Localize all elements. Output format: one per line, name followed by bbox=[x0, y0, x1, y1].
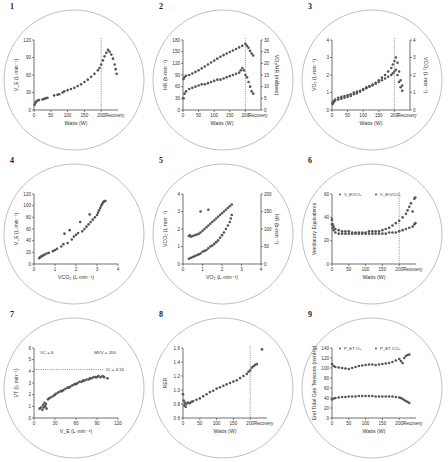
y-tick-label: 3 bbox=[177, 209, 180, 214]
data-point bbox=[381, 395, 384, 398]
y-axis-label: VT (L·min⁻¹) bbox=[13, 368, 19, 397]
data-point bbox=[361, 364, 364, 367]
x-tick-label: 50 bbox=[197, 421, 203, 426]
data-point bbox=[348, 232, 351, 235]
chart-svg: 050100150200Recovery03060901201501800510… bbox=[149, 0, 298, 154]
data-point bbox=[391, 231, 394, 234]
data-point bbox=[384, 395, 387, 398]
x-tick-label: 2 bbox=[75, 267, 78, 272]
x-tick-label: 50 bbox=[48, 113, 54, 118]
data-point bbox=[354, 232, 357, 235]
data-point bbox=[337, 396, 340, 399]
data-point bbox=[112, 57, 115, 60]
y2-tick-label: 2 bbox=[413, 73, 416, 78]
data-point bbox=[232, 380, 235, 383]
y-tick-label: 120 bbox=[23, 192, 31, 197]
data-point bbox=[40, 406, 43, 409]
y-tick-label: 120 bbox=[172, 61, 180, 66]
data-point bbox=[210, 61, 213, 64]
data-point bbox=[44, 405, 47, 408]
data-point bbox=[408, 402, 411, 405]
data-point bbox=[388, 362, 391, 365]
y-tick-label: 120 bbox=[23, 38, 31, 43]
y-axis-label: VCO₂ (L·min⁻¹) bbox=[162, 211, 168, 247]
data-point bbox=[401, 216, 404, 219]
data-point bbox=[222, 77, 225, 80]
panel-circle bbox=[153, 10, 293, 150]
data-point bbox=[395, 359, 398, 362]
y-tick-label: 4 bbox=[177, 192, 180, 197]
data-point bbox=[410, 202, 413, 205]
x-tick-label: 30 bbox=[52, 421, 58, 426]
chart-svg: 03060901200123456V_E (L·min⁻¹)VT (L·min⁻… bbox=[0, 308, 149, 462]
data-point bbox=[225, 52, 228, 55]
data-point bbox=[207, 224, 210, 227]
y-tick-label: 40 bbox=[324, 215, 330, 220]
data-point bbox=[398, 70, 401, 73]
data-point bbox=[395, 56, 398, 59]
data-point bbox=[199, 397, 202, 400]
data-point bbox=[105, 52, 108, 55]
y-tick-label: 2 bbox=[326, 73, 329, 78]
y2-tick-label: 0 bbox=[264, 108, 267, 113]
panel-circle bbox=[302, 10, 442, 150]
annotation: IC = 4.16 bbox=[106, 367, 124, 372]
data-point bbox=[80, 83, 83, 86]
data-point bbox=[341, 230, 344, 233]
data-point bbox=[378, 230, 381, 233]
panel-2-hr-o2pulse-vs-watts: 2050100150200Recovery0306090120150180051… bbox=[149, 0, 298, 154]
data-point bbox=[354, 395, 357, 398]
x-tick-label: Recovery bbox=[403, 421, 423, 426]
data-point bbox=[396, 61, 399, 64]
y-tick-label: 20 bbox=[26, 250, 32, 255]
data-point bbox=[205, 393, 208, 396]
data-point bbox=[356, 92, 359, 95]
x-tick-label: 50 bbox=[346, 421, 352, 426]
data-point bbox=[337, 229, 340, 232]
data-point bbox=[358, 365, 361, 368]
data-point bbox=[401, 229, 404, 232]
data-point bbox=[88, 213, 91, 216]
data-point bbox=[213, 219, 216, 222]
data-point bbox=[395, 231, 398, 234]
data-point bbox=[371, 363, 374, 366]
data-point bbox=[62, 243, 65, 246]
y-tick-label: 180 bbox=[172, 38, 180, 43]
data-point bbox=[247, 81, 250, 84]
data-point bbox=[223, 231, 226, 234]
y2-axis-label: VCO₂ (L·min⁻¹) bbox=[423, 57, 429, 93]
data-point bbox=[401, 89, 404, 92]
data-point bbox=[100, 63, 103, 66]
data-point bbox=[331, 363, 334, 366]
data-point bbox=[97, 69, 100, 72]
y-tick-label: 3 bbox=[28, 381, 31, 386]
data-point bbox=[219, 55, 222, 58]
data-point bbox=[46, 96, 49, 99]
x-tick-label: 0 bbox=[182, 113, 185, 118]
data-point bbox=[232, 49, 235, 52]
data-point bbox=[391, 361, 394, 364]
data-point bbox=[244, 74, 247, 77]
x-tick-label: 90 bbox=[94, 421, 100, 426]
data-point bbox=[381, 79, 384, 82]
x-axis-label: VO₂ (L·min⁻¹) bbox=[206, 274, 238, 280]
chart-svg: 050100150200Recovery0123401234Watts (W)V… bbox=[298, 0, 447, 154]
data-point bbox=[212, 389, 215, 392]
data-point bbox=[395, 68, 398, 71]
data-point bbox=[249, 50, 252, 53]
panel-3-vo2-vco2-vs-watts: 3050100150200Recovery0123401234Watts (W)… bbox=[298, 0, 447, 154]
data-point bbox=[403, 357, 406, 360]
data-point bbox=[361, 232, 364, 235]
data-point bbox=[381, 363, 384, 366]
data-point bbox=[384, 228, 387, 231]
data-point bbox=[243, 69, 246, 72]
panel-9-end-tidal-gas-tensions: 9050100150200Recovery020406080100120140W… bbox=[298, 308, 447, 462]
data-point bbox=[45, 403, 48, 406]
data-point bbox=[346, 96, 349, 99]
data-point bbox=[68, 229, 71, 232]
data-point bbox=[225, 76, 228, 79]
x-tick-label: 60 bbox=[73, 421, 79, 426]
x-tick-label: 150 bbox=[81, 113, 89, 118]
x-tick-label: 120 bbox=[114, 421, 122, 426]
y-tick-label: 0 bbox=[326, 108, 329, 113]
